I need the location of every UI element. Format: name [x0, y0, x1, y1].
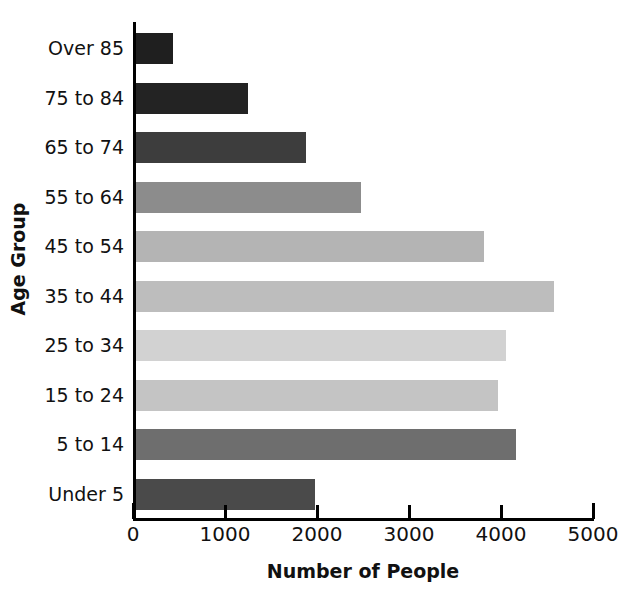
y-axis-label: 65 to 74 — [0, 132, 124, 163]
x-axis-tick-mark — [132, 503, 135, 519]
bar-55-to-64 — [136, 182, 361, 213]
bar-45-to-54 — [136, 231, 484, 262]
y-axis-label: 75 to 84 — [0, 83, 124, 114]
y-axis-label: Under 5 — [0, 479, 124, 510]
bar-fill — [136, 83, 248, 114]
x-axis-tick-mark — [316, 505, 319, 519]
x-axis-tick-mark — [500, 505, 503, 519]
y-axis-label: 15 to 24 — [0, 380, 124, 411]
bar-fill — [136, 33, 173, 64]
y-axis-label: Over 85 — [0, 33, 124, 64]
bar-5-to-14 — [136, 429, 516, 460]
plot-area — [133, 22, 593, 518]
bar-fill — [136, 132, 306, 163]
bar-fill — [136, 182, 361, 213]
y-axis-label: 45 to 54 — [0, 231, 124, 262]
y-axis-label: 5 to 14 — [0, 429, 124, 460]
y-axis-label: 35 to 44 — [0, 281, 124, 312]
bar-fill — [136, 429, 516, 460]
bar-fill — [136, 380, 498, 411]
bar-over-85 — [136, 33, 173, 64]
x-axis-tick-mark — [408, 505, 411, 519]
chart-title — [0, 0, 615, 2]
x-axis-tick-label: 5000 — [533, 522, 622, 546]
x-axis-spine — [133, 518, 594, 521]
bar-35-to-44 — [136, 281, 554, 312]
bar-65-to-74 — [136, 132, 306, 163]
bar-fill — [136, 231, 484, 262]
x-axis-title: Number of People — [133, 560, 593, 582]
y-axis-label: 25 to 34 — [0, 330, 124, 361]
bar-fill — [136, 330, 506, 361]
x-axis-tick-mark — [224, 505, 227, 519]
y-axis-label: 55 to 64 — [0, 182, 124, 213]
bar-25-to-34 — [136, 330, 506, 361]
x-axis-tick-mark — [592, 503, 595, 519]
bar-75-to-84 — [136, 83, 248, 114]
bar-fill — [136, 281, 554, 312]
bar-15-to-24 — [136, 380, 498, 411]
